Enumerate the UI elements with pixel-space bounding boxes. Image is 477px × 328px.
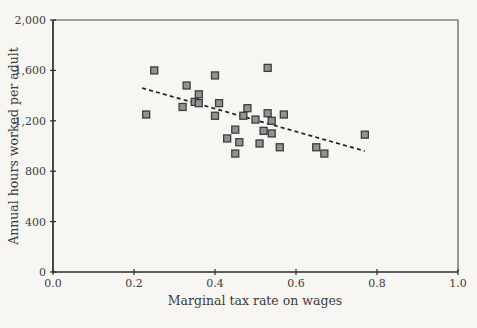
data-point [361,131,368,138]
y-tick-label: 2,000 [15,14,47,27]
data-point [321,150,328,157]
data-point [276,144,283,151]
data-points [143,64,369,157]
data-point [252,116,259,123]
data-point [143,111,150,118]
data-point [224,135,231,142]
x-tick-label: 0.8 [368,277,386,290]
x-tick-label: 0.2 [125,277,143,290]
y-tick-label: 800 [25,165,46,178]
axis-ticks: 0.00.20.40.60.81.004008001,2001,6002,000 [15,14,467,290]
data-point [236,139,243,146]
data-point [212,72,219,79]
data-point [268,117,275,124]
data-point [179,103,186,110]
data-point [232,150,239,157]
data-point [216,100,223,107]
x-tick-label: 0.4 [206,277,224,290]
scatter-chart: 0.00.20.40.60.81.004008001,2001,6002,000… [0,0,477,328]
data-point [268,130,275,137]
data-point [244,105,251,112]
data-point [195,91,202,98]
data-point [195,100,202,107]
data-point [151,67,158,74]
x-tick-label: 1.0 [449,277,467,290]
data-point [212,112,219,119]
y-axis-title: Annual hours worked per adult [6,47,21,246]
data-point [240,112,247,119]
data-point [280,111,287,118]
data-point [260,127,267,134]
data-point [256,140,263,147]
x-tick-label: 0.6 [287,277,305,290]
data-point [183,82,190,89]
y-tick-label: 400 [25,216,46,229]
data-point [313,144,320,151]
y-tick-label: 0 [39,266,46,279]
data-point [232,126,239,133]
scatter-figure: 0.00.20.40.60.81.004008001,2001,6002,000… [0,0,477,328]
data-point [264,64,271,71]
x-tick-label: 0.0 [44,277,62,290]
x-axis-title: Marginal tax rate on wages [168,293,343,308]
data-point [264,110,271,117]
